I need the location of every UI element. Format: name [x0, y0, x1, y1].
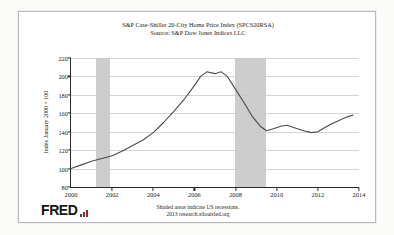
screenshot-root: S&P Case-Shiller 20-City Home Price Inde… — [0, 0, 394, 235]
chart-frame: S&P Case-Shiller 20-City Home Price Inde… — [18, 11, 376, 223]
x-tick-label: 2014 — [353, 191, 366, 198]
fred-bars-icon — [80, 209, 88, 217]
chart-title-block: S&P Case-Shiller 20-City Home Price Inde… — [19, 21, 377, 37]
y-tick-mark — [68, 113, 71, 114]
y-tick-mark — [68, 94, 71, 95]
x-tick-label: 2008 — [229, 191, 242, 198]
x-tick-label: 2006 — [188, 191, 201, 198]
x-tick-mark — [317, 187, 318, 191]
y-tick-label: 80 — [62, 184, 68, 191]
y-tick-mark — [68, 150, 71, 151]
y-tick-label: 140 — [58, 128, 68, 135]
x-tick-mark — [358, 187, 359, 191]
y-tick-mark — [68, 168, 71, 169]
x-tick-label: 2004 — [147, 191, 160, 198]
chart-source: Source: S&P Dow Jones Indices LLC — [19, 29, 377, 37]
chart-title: S&P Case-Shiller 20-City Home Price Inde… — [19, 21, 377, 29]
x-tick-label: 2010 — [270, 191, 283, 198]
y-axis-label: Index January 2000 = 100 — [43, 91, 49, 154]
fred-logo: FRED — [41, 204, 88, 217]
x-tick-mark — [235, 187, 236, 191]
y-tick-label: 120 — [58, 147, 68, 154]
series-line-svg — [71, 58, 359, 187]
y-tick-mark — [68, 186, 71, 187]
x-tick-mark — [112, 187, 113, 191]
plot-area: 80100120140160180200220 2000200220042006… — [70, 58, 359, 188]
series-line — [71, 72, 353, 169]
y-tick-label: 220 — [58, 55, 68, 62]
x-tick-mark — [194, 187, 195, 191]
y-tick-label: 180 — [58, 91, 68, 98]
x-tick-mark — [276, 187, 277, 191]
y-tick-mark — [68, 57, 71, 58]
x-tick-label: 2002 — [106, 191, 119, 198]
x-tick-label: 2000 — [65, 191, 78, 198]
y-tick-label: 100 — [58, 165, 68, 172]
y-tick-mark — [68, 76, 71, 77]
fred-wordmark: FRED — [41, 204, 78, 217]
y-tick-label: 200 — [58, 73, 68, 80]
y-tick-label: 160 — [58, 110, 68, 117]
y-tick-mark — [68, 131, 71, 132]
x-tick-label: 2012 — [311, 191, 324, 198]
x-tick-mark — [153, 187, 154, 191]
